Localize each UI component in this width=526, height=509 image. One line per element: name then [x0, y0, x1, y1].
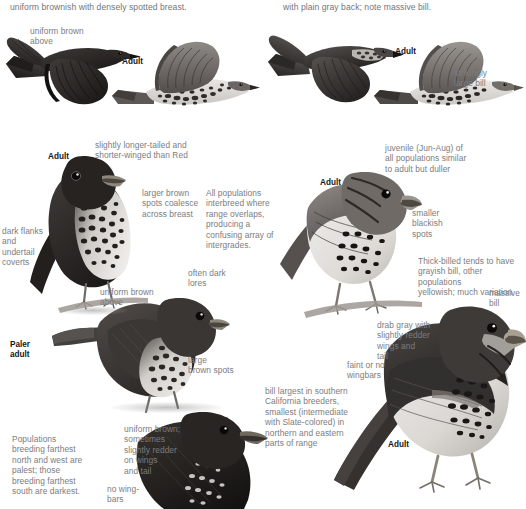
- annotation-longer-tailed: slightly longer-tailed and shorter-winge…: [95, 140, 188, 161]
- annotation-dark-flanks: dark flanks and undertail coverts: [2, 226, 43, 268]
- illustration-perched-spotted-right: [278, 168, 422, 318]
- illustration-flying-bird-gray-right: [266, 20, 406, 105]
- annotation-populations-breeding: Populations breeding farthest north and …: [12, 434, 82, 496]
- annotation-bill-largest: bill largest in southern California bree…: [265, 386, 348, 448]
- annotation-drab-gray: drab gray with slightly redder wings and…: [377, 320, 430, 362]
- illustration-flying-bird-under-left: [110, 38, 260, 128]
- annotation-juvenile-note: juvenile (Jun-Aug) of all populations si…: [385, 143, 466, 174]
- annotation-often-dark-lores: often dark lores: [188, 268, 226, 289]
- field-guide-plate: uniform brownish with densely spotted br…: [0, 0, 526, 509]
- annotation-no-wing-bars: no wing- bars: [107, 484, 139, 505]
- annotation-smaller-blackish-spots: smaller blackish spots: [412, 208, 443, 239]
- caption-left: uniform brownish with densely spotted br…: [10, 2, 187, 12]
- label-adult-bottom-right: Adult: [388, 440, 409, 450]
- label-paler-adult: Paler adult: [10, 340, 30, 360]
- annotation-uniform-brown-above-2: uniform brown above: [100, 287, 154, 308]
- annotation-all-populations: All populations interbreed where range o…: [206, 188, 273, 250]
- shadow-perched-left: [112, 402, 222, 413]
- annotation-larger-brown-spots: larger brown spots coalesce across breas…: [142, 188, 198, 219]
- label-adult-flight-right: Adult: [395, 47, 416, 57]
- caption-right: with plain gray back; note massive bill.: [283, 2, 431, 12]
- annotation-faint-or-no-wingbars: faint or no wingbars: [347, 360, 385, 381]
- annotation-massive-bill: massive bill: [489, 288, 520, 309]
- annotation-large-brown-spots: large brown spots: [188, 355, 234, 376]
- label-adult-flight-left: Adult: [122, 57, 143, 67]
- annotation-uniform-brown-above-1: uniform brown above: [30, 26, 84, 47]
- annotation-strikingly-large-bill: strikingly large bill: [454, 68, 487, 89]
- annotation-uniform-brown-sometimes: uniform brown; sometimes slightly redder…: [124, 424, 180, 476]
- label-adult-perched-right: Adult: [320, 178, 341, 188]
- label-adult-perched-left: Adult: [48, 152, 69, 162]
